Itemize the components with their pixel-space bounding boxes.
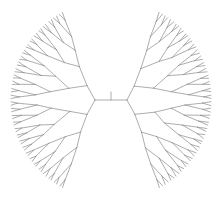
branch (127, 86, 134, 100)
leaf-branch (41, 165, 45, 172)
branch (19, 95, 35, 97)
branch (33, 50, 47, 56)
dendrogram (0, 0, 223, 200)
branch (54, 158, 63, 174)
leaf-branch (171, 167, 176, 176)
branch (60, 24, 72, 37)
leaf-branch (172, 24, 176, 31)
branch (150, 21, 156, 36)
leaf-branch (203, 109, 210, 112)
branch (135, 112, 155, 114)
leaf-branch (204, 95, 211, 97)
branch (77, 132, 81, 147)
branch (47, 56, 64, 63)
leaf-branch (39, 31, 45, 35)
branch (17, 103, 37, 105)
branch (172, 46, 184, 58)
branch (44, 124, 55, 134)
branch (50, 158, 63, 169)
root-link (95, 92, 127, 100)
branch (87, 86, 95, 100)
branch (159, 27, 167, 41)
branch (168, 35, 177, 48)
branch (65, 20, 72, 36)
leaf-branch (203, 108, 211, 109)
branch (159, 31, 171, 41)
branch (127, 100, 135, 114)
branch (69, 86, 87, 89)
branch (70, 111, 87, 114)
branch (36, 143, 49, 156)
branch (37, 108, 51, 115)
branch (56, 76, 69, 88)
leaf-branch (201, 115, 210, 118)
branch (141, 132, 156, 136)
leaf-branch (161, 18, 167, 25)
leaf-branch (201, 75, 208, 78)
leaf-branch (39, 165, 46, 170)
branch (179, 61, 195, 66)
branch (189, 91, 203, 95)
branch (151, 164, 162, 176)
branch (154, 88, 172, 92)
branch (151, 164, 157, 180)
branch (185, 103, 202, 105)
branch (166, 150, 182, 160)
branch (141, 132, 145, 148)
branch (20, 78, 35, 84)
branch (134, 86, 153, 88)
branch (87, 100, 95, 114)
branch (19, 91, 36, 95)
branch (42, 41, 56, 50)
leaf-branch (14, 75, 20, 78)
branch (150, 25, 161, 37)
leaf-branch (204, 97, 211, 98)
branch (187, 78, 201, 84)
leaf-branch (12, 109, 20, 111)
branch (51, 33, 63, 43)
branch (159, 158, 171, 167)
branch (65, 132, 80, 137)
leaf-branch (11, 97, 19, 99)
leaf-branch (171, 167, 179, 173)
branch (64, 63, 79, 67)
leaf-branch (11, 108, 19, 109)
branch (168, 41, 180, 48)
branch (172, 143, 188, 150)
leaf-branch (203, 81, 209, 84)
branch (45, 152, 54, 165)
branch (172, 50, 189, 58)
branch (20, 105, 37, 109)
branch (168, 65, 179, 75)
leaf-branch (46, 24, 52, 32)
branch (155, 108, 171, 112)
branch (54, 111, 70, 124)
branch (37, 105, 51, 108)
branch (172, 92, 189, 95)
leaf-branch (11, 103, 17, 105)
branch (65, 164, 71, 180)
branch (189, 95, 204, 97)
branch (155, 112, 165, 123)
branch (159, 158, 168, 174)
leaf-branch (23, 144, 32, 147)
branch (185, 105, 203, 109)
branch (21, 115, 37, 122)
branch (40, 152, 55, 161)
leaf-branch (202, 103, 210, 105)
leaf-branch (161, 16, 165, 25)
leaf-branch (184, 39, 190, 46)
branch (50, 88, 69, 91)
branch (171, 108, 184, 115)
leaf-branch (202, 102, 211, 103)
branch (141, 50, 147, 68)
branch (45, 35, 56, 50)
leaf-branch (34, 36, 42, 41)
leaf-branch (11, 95, 19, 97)
leaf-branch (36, 33, 42, 41)
branch (30, 55, 44, 66)
leaf-branch (11, 91, 18, 92)
branch (40, 124, 54, 125)
leaf-branch (41, 29, 45, 35)
branch (36, 84, 51, 91)
